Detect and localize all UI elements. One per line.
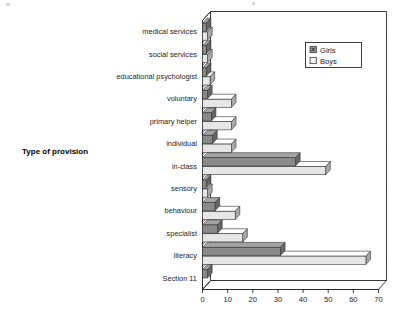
- chart-canvas: medical servicessocial serviceseducation…: [0, 0, 396, 319]
- bar-chart: medical servicessocial serviceseducation…: [0, 0, 396, 319]
- x-tick-label-3: 30: [274, 295, 282, 304]
- category-label-7: sensory: [171, 184, 197, 193]
- bar-front-face: [203, 90, 208, 98]
- legend-label-girls: Girls: [320, 46, 336, 55]
- category-label-3: voluntary: [167, 94, 197, 103]
- bar-front-face: [203, 203, 216, 211]
- category-label-6: in-class: [172, 162, 197, 171]
- legend-swatch-inner-1: [312, 59, 315, 62]
- bar-front-face: [203, 23, 207, 31]
- category-label-5: individual: [166, 139, 197, 148]
- bar-girls-8: [203, 198, 220, 211]
- bar-top-face: [203, 153, 301, 158]
- bar-front-face: [203, 99, 232, 107]
- category-label-2: educational psychologist: [116, 72, 197, 81]
- x-axis: 010203040506070: [200, 290, 382, 304]
- bar-front-face: [203, 225, 218, 233]
- bar-girls-10: [203, 242, 286, 255]
- bar-front-face: [203, 180, 207, 188]
- bar-girls-9: [203, 220, 223, 233]
- category-label-1: social services: [149, 50, 197, 59]
- bar-girls-6: [203, 153, 301, 166]
- x-tick-label-6: 60: [349, 295, 357, 304]
- bar-front-face: [203, 32, 208, 40]
- bar-top-face: [203, 242, 286, 247]
- scan-artifact: [252, 2, 255, 5]
- bar-front-face: [203, 144, 232, 152]
- x-tick-label-7: 70: [374, 295, 382, 304]
- x-tick-label-0: 0: [200, 295, 204, 304]
- bar-front-face: [203, 189, 208, 197]
- bar-front-face: [203, 234, 243, 242]
- category-labels: medical servicessocial serviceseducation…: [116, 27, 197, 283]
- category-label-4: primary helper: [150, 117, 198, 126]
- bar-front-face: [203, 211, 236, 219]
- bar-front-face: [203, 54, 208, 62]
- x-tick-label-5: 50: [324, 295, 332, 304]
- category-label-11: Section 11: [163, 274, 197, 283]
- bar-front-face: [203, 68, 207, 76]
- bar-front-face: [203, 158, 296, 166]
- bar-front-face: [203, 270, 208, 278]
- x-tick-label-1: 10: [223, 295, 231, 304]
- x-tick-label-2: 20: [249, 295, 257, 304]
- bar-front-face: [203, 247, 281, 255]
- bar-front-face: [203, 46, 207, 54]
- bar-front-face: [203, 167, 326, 175]
- bar-front-face: [203, 113, 212, 121]
- bar-front-face: [203, 77, 211, 85]
- legend-swatch-inner-0: [312, 48, 315, 51]
- category-label-9: specialist: [167, 229, 197, 238]
- plot-floor: [203, 281, 387, 290]
- bar-front-face: [203, 122, 232, 130]
- scan-artifact: [6, 3, 10, 6]
- bar-front-face: [203, 256, 366, 264]
- category-label-0: medical services: [142, 27, 197, 36]
- legend: GirlsBoys: [306, 43, 362, 68]
- category-label-8: behaviour: [165, 206, 198, 215]
- legend-label-boys: Boys: [320, 57, 337, 66]
- x-tick-label-4: 40: [299, 295, 307, 304]
- category-label-10: literacy: [174, 251, 198, 260]
- y-axis-title: Type of provision: [22, 147, 88, 156]
- bar-front-face: [203, 135, 213, 143]
